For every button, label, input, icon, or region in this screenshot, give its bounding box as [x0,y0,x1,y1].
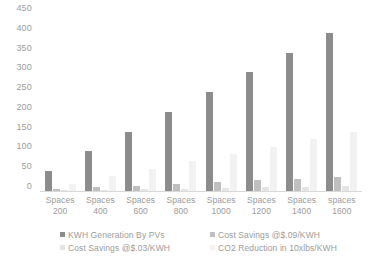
legend-label: Cost Savings @$.03/KWH [68,243,170,253]
legend-swatch-icon [60,232,65,237]
chart-legend: KWH Generation By PVsCost Savings @$.09/… [60,228,360,254]
bar [173,184,180,191]
y-axis-tick: 250 [16,82,32,92]
x-axis-labels: Spaces200Spaces400Spaces600Spaces800Spac… [40,195,362,223]
legend-label: Cost Savings @$.09/KWH [218,230,320,240]
y-axis-tick: 150 [16,122,32,132]
y-axis: 450400350300250200150100500 [0,8,36,186]
bar [109,176,116,191]
bar [189,161,196,191]
x-axis-tick-label: Spaces200 [40,195,80,223]
legend-swatch-icon [60,245,65,250]
bar [254,180,261,191]
bar [286,53,293,191]
legend-label: KWH Generation By PVs [68,230,165,240]
x-axis-tick-label: spaces1600 [322,195,362,223]
y-axis-tick: 200 [16,102,32,112]
legend-swatch-icon [210,245,215,250]
y-axis-tick: 450 [16,3,32,13]
x-axis-line [40,191,362,192]
x-axis-tick-label: Spaces1000 [201,195,241,223]
bar-group [80,14,120,191]
bar-group [121,14,161,191]
y-axis-tick: 350 [16,43,32,53]
bar [294,179,301,191]
x-axis-tick-label: Spaces800 [161,195,201,223]
bar-groups [40,14,362,191]
bar [270,147,277,192]
y-axis-tick: 0 [27,181,32,191]
y-axis-tick: 100 [16,141,32,151]
legend-item[interactable]: Cost Savings @$.03/KWH [60,241,210,254]
bar [310,139,317,191]
y-axis-tick: 50 [22,161,32,171]
bar [326,33,333,191]
bar [334,177,341,191]
bar [246,72,253,191]
bar [230,154,237,191]
legend-item[interactable]: CO2 Reduction in 10xlbs/KWH [210,241,360,254]
legend-item[interactable]: KWH Generation By PVs [60,228,210,241]
legend-label: CO2 Reduction in 10xlbs/KWH [218,243,337,253]
y-axis-tick: 400 [16,23,32,33]
x-axis-tick-label: Spaces400 [80,195,120,223]
bar [149,169,156,191]
bar [125,132,132,191]
bar-group [282,14,322,191]
bar-group [161,14,201,191]
bar [85,151,92,191]
bar-group [201,14,241,191]
bar-group [322,14,362,191]
x-axis-tick-label: Spaces1400 [282,195,322,223]
y-axis-tick: 300 [16,62,32,72]
legend-item[interactable]: Cost Savings @$.09/KWH [210,228,360,241]
bar-group [241,14,281,191]
bar [206,92,213,191]
bar-group [40,14,80,191]
bar [214,182,221,191]
plot-area [40,14,362,192]
x-axis-tick-label: Spaces1200 [241,195,281,223]
legend-swatch-icon [210,232,215,237]
x-axis-tick-label: Spaces600 [121,195,161,223]
bar [69,184,76,191]
bar-chart: 450400350300250200150100500 Spaces200Spa… [0,0,371,268]
bar [45,171,52,191]
bar [350,132,357,191]
bar [165,112,172,191]
